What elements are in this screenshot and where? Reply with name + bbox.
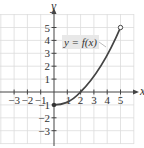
label-leader-line (99, 42, 106, 47)
grid (0, 14, 134, 144)
x-tick-label: 2 (78, 94, 84, 106)
x-tick-label: 5 (118, 94, 124, 106)
y-tick-label: 5 (45, 22, 51, 34)
y-tick-label: 4 (45, 34, 51, 46)
y-tick-label: 1 (45, 73, 51, 85)
y-axis-label: y (50, 0, 57, 13)
x-tick-label: −2 (22, 94, 34, 106)
function-label: y = f(x) (63, 36, 97, 49)
x-tick-label: 4 (104, 94, 110, 106)
y-tick-label: −2 (38, 112, 50, 124)
y-tick-label: −3 (38, 125, 50, 137)
y-tick-label: −1 (38, 99, 50, 111)
x-axis-arrow-icon (133, 90, 139, 95)
y-tick-label: 2 (45, 60, 51, 72)
x-tick-label: −3 (8, 94, 20, 106)
x-tick-label: 3 (91, 94, 97, 106)
function-graph: −3 −2 −1 1 2 3 4 5 5 4 3 2 1 −1 −2 −3 x … (0, 0, 144, 148)
y-tick-label: 3 (45, 47, 51, 59)
closed-endpoint (52, 103, 56, 107)
x-axis-label: x (139, 84, 144, 98)
open-endpoint (118, 25, 122, 29)
